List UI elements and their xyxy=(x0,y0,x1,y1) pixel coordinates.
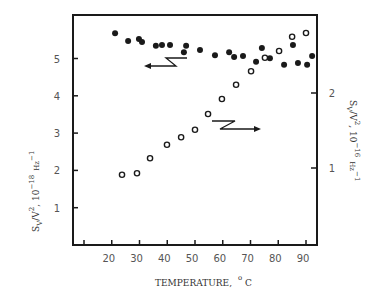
open-data-point xyxy=(303,30,308,35)
x-tick-label: 70 xyxy=(241,253,254,264)
filled-data-point xyxy=(281,62,287,68)
left-axis-arrow-icon xyxy=(144,58,187,69)
filled-data-point xyxy=(181,49,187,55)
left-y-tick-label: 2 xyxy=(54,165,60,176)
filled-data-point xyxy=(240,53,246,59)
filled-data-point xyxy=(290,42,296,48)
open-data-point xyxy=(192,127,197,132)
filled-data-point xyxy=(253,59,259,65)
open-data-point xyxy=(276,48,281,53)
right-axis-arrow-icon xyxy=(212,121,261,132)
open-data-point xyxy=(134,171,139,176)
open-data-point xyxy=(147,156,152,161)
x-tick-label: 80 xyxy=(269,253,282,264)
filled-data-point xyxy=(139,39,145,45)
open-data-point xyxy=(262,55,267,60)
open-data-point xyxy=(233,82,238,87)
right-y-tick-label: 2 xyxy=(329,88,335,99)
x-tick-label: 30 xyxy=(130,253,143,264)
filled-data-point xyxy=(153,43,159,49)
filled-data-point xyxy=(259,45,265,51)
x-tick-label: 40 xyxy=(158,253,171,264)
filled-data-point xyxy=(159,42,165,48)
open-data-point xyxy=(119,172,124,177)
filled-data-point xyxy=(183,43,189,49)
x-tick-label: 90 xyxy=(297,253,310,264)
open-data-point xyxy=(205,111,210,116)
filled-data-point xyxy=(231,54,237,60)
x-axis-title: TEMPERATURE, o C xyxy=(155,272,252,288)
right-y-axis-title: SV/V2, 10−16Hz−1 xyxy=(345,100,361,181)
left-y-tick-label: 3 xyxy=(54,128,60,139)
filled-data-point xyxy=(167,42,173,48)
x-tick-label: 60 xyxy=(213,253,226,264)
left-y-tick-label: 5 xyxy=(54,54,60,65)
filled-data-point xyxy=(295,60,301,66)
right-y-tick-label: 1 xyxy=(329,163,335,174)
left-y-tick-label: 1 xyxy=(54,203,60,214)
filled-data-point xyxy=(197,47,203,53)
x-tick-label: 20 xyxy=(102,253,115,264)
filled-data-point xyxy=(304,62,310,68)
filled-data-point xyxy=(212,52,218,58)
open-data-point xyxy=(248,69,253,74)
filled-data-point xyxy=(226,49,232,55)
scatter-chart: 2030405060708090 12345 12 TEMPERATURE, o… xyxy=(0,0,387,302)
filled-data-point xyxy=(112,30,118,36)
open-data-point xyxy=(290,34,295,39)
open-data-point xyxy=(164,142,169,147)
x-tick-label: 50 xyxy=(186,253,199,264)
open-data-point xyxy=(219,96,224,101)
filled-data-point xyxy=(125,38,131,44)
filled-data-point xyxy=(309,53,315,59)
left-y-axis-title: SV/V2, 10−18Hz−1 xyxy=(28,151,44,232)
left-y-tick-label: 4 xyxy=(54,91,60,102)
left-y-axis-ticks: 12345 xyxy=(54,54,78,214)
x-axis-ticks: 2030405060708090 xyxy=(84,240,309,264)
right-y-axis-ticks: 12 xyxy=(311,88,335,174)
filled-circle-series xyxy=(112,30,315,68)
open-data-point xyxy=(179,135,184,140)
